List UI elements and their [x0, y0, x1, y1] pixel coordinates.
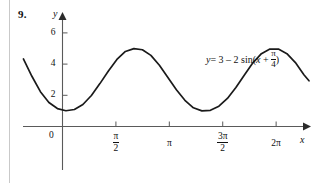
x-tick-marks [116, 122, 276, 127]
equation-coefficient: 2 sin( [231, 54, 256, 65]
x-tick-label: 3π2 [210, 132, 236, 154]
figure-container: 9. y x 0 246 π2π3π22π y= 3 – 2 sin(x + π… [0, 0, 319, 183]
y-axis-arrowhead [59, 12, 67, 20]
equation-eq: = 3 [210, 54, 226, 65]
x-tick-label: 2π [263, 139, 289, 149]
y-tick-label: 4 [42, 58, 56, 68]
y-tick-marks [63, 33, 68, 95]
x-tick-label: π [156, 139, 182, 149]
x-tick-label: π2 [103, 132, 129, 154]
y-tick-label: 6 [42, 27, 56, 37]
origin-label: 0 [49, 130, 54, 140]
y-axis-label: y [53, 8, 57, 19]
x-axis-arrowhead [303, 123, 311, 131]
y-tick-label: 2 [42, 89, 56, 99]
equation-plus: + [261, 54, 272, 65]
equation-annotation: y= 3 – 2 sin(x + π 4 ) [206, 49, 279, 69]
x-axis-label: x [300, 134, 304, 145]
equation-close-paren: ) [276, 54, 279, 65]
